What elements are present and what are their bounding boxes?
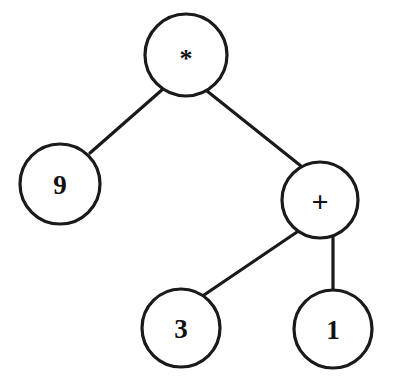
- tree-node-rleft[interactable]: 3: [142, 289, 220, 367]
- node-label-rleft: 3: [174, 314, 188, 344]
- tree-node-right[interactable]: +: [282, 162, 358, 238]
- expression-tree-canvas: *9+31: [0, 0, 395, 386]
- tree-edge-right-to-rleft: [204, 232, 297, 295]
- node-label-left: 9: [53, 170, 67, 200]
- tree-node-rright[interactable]: 1: [294, 290, 372, 368]
- node-label-rright: 1: [326, 315, 340, 345]
- tree-edge-root-to-left: [90, 89, 163, 153]
- tree-edge-root-to-right: [207, 91, 301, 166]
- node-label-root: *: [180, 44, 193, 73]
- tree-node-root[interactable]: *: [145, 14, 227, 96]
- expression-tree-diagram: *9+31: [0, 0, 395, 386]
- tree-node-left[interactable]: 9: [20, 144, 100, 224]
- node-label-right: +: [311, 185, 328, 218]
